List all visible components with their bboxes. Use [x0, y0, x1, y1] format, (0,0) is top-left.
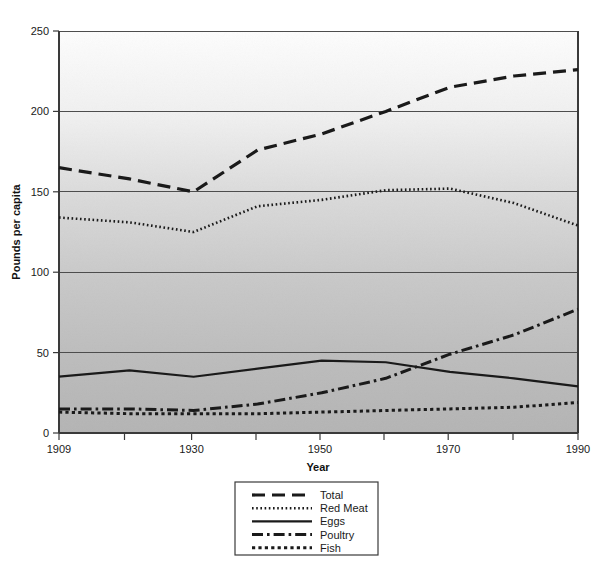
legend-box [235, 482, 378, 555]
x-tick-label-1909: 1909 [47, 443, 71, 455]
y-tick-marks [53, 31, 59, 433]
chart-svg: 250 200 150 100 50 0 Pounds per capita 1… [0, 0, 611, 579]
x-tick-marks [59, 433, 578, 440]
y-tick-label-0: 0 [43, 427, 49, 439]
y-tick-label-50: 50 [37, 347, 49, 359]
legend-label-fish: Fish [320, 542, 341, 554]
y-tick-label-150: 150 [31, 186, 49, 198]
x-tick-label-1950: 1950 [308, 443, 332, 455]
y-tick-label-250: 250 [31, 25, 49, 37]
x-tick-label-1930: 1930 [179, 443, 203, 455]
chart-figure: 250 200 150 100 50 0 Pounds per capita 1… [0, 0, 611, 579]
x-tick-label-1970: 1970 [436, 443, 460, 455]
y-tick-label-200: 200 [31, 105, 49, 117]
x-axis-title: Year [306, 461, 330, 473]
x-tick-label-1990: 1990 [566, 443, 590, 455]
plot-area-grain [59, 31, 578, 433]
legend-label-eggs: Eggs [320, 515, 346, 527]
y-axis-title: Pounds per capita [10, 183, 22, 279]
y-tick-label-100: 100 [31, 266, 49, 278]
legend-label-total: Total [320, 489, 343, 501]
legend-label-red-meat: Red Meat [320, 502, 368, 514]
legend-label-poultry: Poultry [320, 529, 355, 541]
